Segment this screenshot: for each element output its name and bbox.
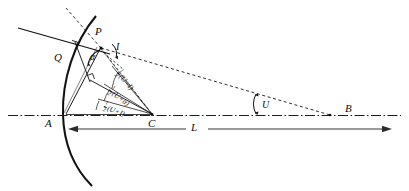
point-label-b: B	[345, 103, 352, 114]
angle-arc-u	[254, 94, 256, 114]
l-arrow-head-right	[382, 126, 392, 132]
point-label-q: Q	[54, 52, 62, 63]
angle-label-alpha: α	[90, 52, 95, 62]
angle-arc-alpha-arrowhead	[87, 63, 91, 66]
diagram-vector-layer	[0, 0, 409, 191]
l-arrow-head-left	[68, 126, 78, 132]
distance-label-l: L	[191, 122, 197, 133]
angle-label-u: U	[262, 100, 269, 110]
mirror-surface-arc	[63, 16, 96, 186]
point-dot-p	[100, 47, 103, 50]
point-dot-b	[329, 114, 332, 117]
mirror-surface-inner-edge	[62, 19, 94, 184]
point-dot-c	[151, 113, 154, 116]
point-label-p: P	[95, 26, 102, 37]
angle-arc-c-3	[96, 101, 99, 110]
point-label-a: A	[45, 118, 52, 129]
point-label-c: C	[148, 118, 155, 129]
diagram-canvas: P Q A C B α I U L 1 2 (U+I) 1 2 (U+α) 1 …	[0, 0, 409, 191]
angle-label-i: I	[116, 42, 119, 52]
